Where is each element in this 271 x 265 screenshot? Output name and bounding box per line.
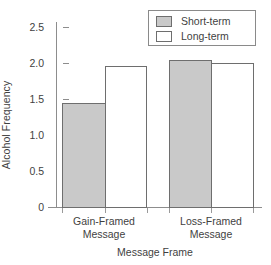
x-tick-mark-4 [211, 208, 212, 213]
x-category-label-loss-framed-line2: Message [161, 228, 261, 241]
legend: Short-term Long-term [148, 10, 256, 46]
legend-label-long-term: Long-term [181, 30, 229, 42]
x-tick-mark-3 [169, 208, 170, 213]
legend-swatch-short-term [156, 16, 172, 27]
y-axis-title: Alcohol Frequency [0, 25, 14, 225]
y-tick-mark-3 [63, 99, 69, 100]
y-axis-line [56, 22, 57, 208]
y-tick-label-3: 1.5 [16, 93, 44, 105]
y-tick-mark-5 [63, 27, 69, 28]
legend-item-long-term: Long-term [156, 29, 255, 43]
bar-chart-figure: Alcohol Frequency 0 0.5 1.0 1.5 2.0 2.5 … [0, 0, 271, 265]
y-tick-label-2: 1.0 [16, 129, 44, 141]
x-category-label-gain-framed-line2: Message [54, 228, 154, 241]
bar-loss-framed-short-term [169, 60, 212, 208]
bar-loss-framed-long-term [211, 63, 254, 208]
x-tick-mark-0 [62, 208, 63, 213]
y-tick-label-1: 0.5 [16, 165, 44, 177]
y-tick-mark-4 [63, 63, 69, 64]
y-axis-ticks: 0 0.5 1.0 1.5 2.0 2.5 [16, 0, 44, 265]
bar-gain-framed-long-term [105, 66, 147, 208]
x-category-label-loss-framed: Loss-Framed Message [161, 215, 261, 241]
x-category-label-gain-framed: Gain-Framed Message [54, 215, 154, 241]
y-tick-label-5: 2.5 [16, 21, 44, 33]
y-tick-label-0: 0 [16, 201, 44, 213]
legend-label-short-term: Short-term [181, 15, 231, 27]
x-tick-mark-2 [147, 208, 148, 213]
x-tick-mark-5 [253, 208, 254, 213]
bar-gain-framed-short-term [62, 103, 106, 208]
x-category-label-loss-framed-line1: Loss-Framed [161, 215, 261, 228]
y-tick-label-4: 2.0 [16, 57, 44, 69]
x-category-label-gain-framed-line1: Gain-Framed [54, 215, 154, 228]
x-axis-title: Message Frame [48, 246, 262, 258]
legend-swatch-long-term [156, 31, 172, 42]
legend-item-short-term: Short-term [156, 14, 255, 28]
x-tick-mark-1 [105, 208, 106, 213]
